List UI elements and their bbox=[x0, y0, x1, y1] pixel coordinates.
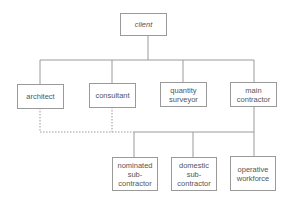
node-client: client bbox=[120, 13, 167, 36]
node-main-contractor: main contractor bbox=[230, 82, 277, 107]
node-quantity-surveyor: quantity surveyor bbox=[160, 82, 207, 107]
node-domestic-subcontractor: domestic sub- contractor bbox=[171, 157, 217, 191]
node-architect: architect bbox=[17, 84, 64, 109]
node-operative-workforce: operative workforce bbox=[230, 156, 276, 191]
node-nominated-subcontractor: nominated sub- contractor bbox=[112, 157, 158, 191]
dashed-lines bbox=[40, 107, 134, 132]
node-consultant: consultant bbox=[89, 83, 136, 108]
